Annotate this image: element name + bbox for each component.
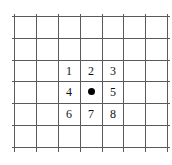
neighbor-cell-8: 8	[102, 103, 124, 125]
neighbor-cell-3: 3	[102, 60, 124, 82]
horizontal-grid-lines	[12, 17, 170, 148]
center-pixel-dot	[88, 88, 95, 95]
vertical-grid-lines	[15, 14, 168, 152]
neighborhood-grid-figure: 1 2 3 4 5 6 7 8	[0, 0, 172, 165]
neighbor-cell-5: 5	[102, 81, 124, 103]
neighbor-cell-1: 1	[58, 60, 80, 82]
grid-lines	[0, 0, 172, 165]
neighbor-cell-4: 4	[58, 81, 80, 103]
neighbor-cell-7: 7	[80, 103, 102, 125]
neighbor-cell-6: 6	[58, 103, 80, 125]
neighbor-cell-2: 2	[80, 60, 102, 82]
